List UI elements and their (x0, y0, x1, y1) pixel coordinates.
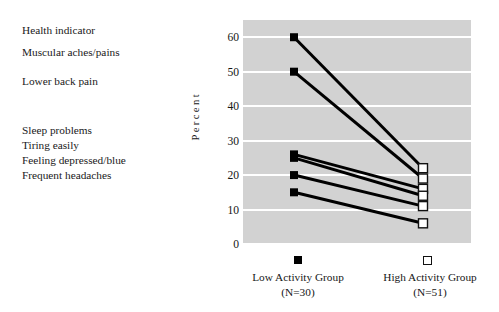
open-square-marker (419, 164, 428, 173)
list-item: Frequent headaches (22, 169, 111, 182)
list-item: Lower back pain (22, 75, 98, 88)
series-lines-and-markers (243, 20, 471, 244)
list-item: Sleep problems (22, 124, 92, 137)
y-tick: 50 (199, 65, 239, 78)
filled-square-marker (290, 188, 298, 196)
list-item: Feeling depressed/blue (22, 154, 126, 167)
filled-square-marker (290, 33, 298, 41)
open-square-marker (419, 219, 428, 228)
list-item: Health indicator (22, 24, 95, 37)
series-line (294, 192, 423, 223)
x-group-low: Low Activity Group (N=30) (231, 270, 365, 300)
plot-area (243, 20, 471, 244)
open-square-marker (423, 256, 432, 265)
chart-figure: Health indicator Muscular aches/pains Lo… (0, 0, 499, 312)
x-group-low-name: Low Activity Group (252, 271, 344, 283)
open-square-marker (419, 191, 428, 200)
y-axis-label: Percent (190, 92, 201, 141)
list-item: Tiring easily (22, 139, 79, 152)
y-tick: 20 (199, 169, 239, 182)
y-tick: 30 (199, 134, 239, 147)
open-square-marker (419, 174, 428, 183)
y-tick: 0 (199, 238, 239, 251)
y-tick: 40 (199, 100, 239, 113)
y-tick: 60 (199, 31, 239, 44)
open-square-marker (419, 202, 428, 211)
filled-square-marker (294, 256, 302, 264)
y-axis-ticks: 60 50 40 30 20 10 0 (195, 20, 239, 244)
x-group-low-n: (N=30) (231, 285, 365, 300)
filled-square-marker (290, 154, 298, 162)
y-tick: 10 (199, 203, 239, 216)
series-line (294, 37, 423, 168)
series-line (294, 154, 423, 188)
x-group-high-name: High Activity Group (383, 271, 477, 283)
x-group-high: High Activity Group (N=51) (363, 270, 497, 300)
filled-square-marker (290, 68, 298, 76)
x-group-high-n: (N=51) (363, 285, 497, 300)
list-item: Muscular aches/pains (22, 46, 120, 59)
filled-square-marker (290, 171, 298, 179)
